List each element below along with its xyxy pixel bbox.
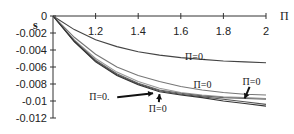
arrow-head-icon <box>156 94 162 99</box>
series-group <box>53 16 266 106</box>
y-tick-label: -0.008 <box>16 78 47 90</box>
axes: 1.21.41.61.820-0.002-0.004-0.006-0.008-0… <box>16 10 269 124</box>
annotations: Π=0.Π=0Π=0Π=0.Π=0 <box>89 51 260 114</box>
annotation-label: Π=0 <box>243 76 261 87</box>
x-tick-label: 1.4 <box>131 25 146 37</box>
arrow-head-icon <box>148 91 153 97</box>
y-tick-label: 0 <box>41 10 47 22</box>
y-tick-label: -0.006 <box>16 61 47 73</box>
x-axis-title: Π <box>280 9 289 23</box>
y-axis-title: s <box>33 18 38 32</box>
y-tick-label: -0.012 <box>16 112 47 124</box>
x-tick-label: 2 <box>263 25 269 37</box>
series-line-curve-3 <box>53 16 266 99</box>
x-tick-label: 1.2 <box>88 25 103 37</box>
y-tick-label: -0.002 <box>16 27 47 39</box>
x-tick-label: 1.8 <box>216 25 231 37</box>
annotation-label: Π=0. <box>89 91 109 102</box>
y-tick-label: -0.01 <box>22 95 47 107</box>
annotation-label: Π=0 <box>149 103 167 114</box>
chart: 1.21.41.61.820-0.002-0.004-0.006-0.008-0… <box>0 0 294 134</box>
series-line-curve-4 <box>53 16 266 99</box>
y-tick-label: -0.004 <box>16 44 47 56</box>
x-tick-label: 1.6 <box>173 25 188 37</box>
series-line-curve-1 <box>53 16 266 63</box>
annotation-label: Π=0. <box>185 51 205 62</box>
annotation-arrow <box>117 93 153 97</box>
annotation-label: Π=0 <box>194 79 212 90</box>
